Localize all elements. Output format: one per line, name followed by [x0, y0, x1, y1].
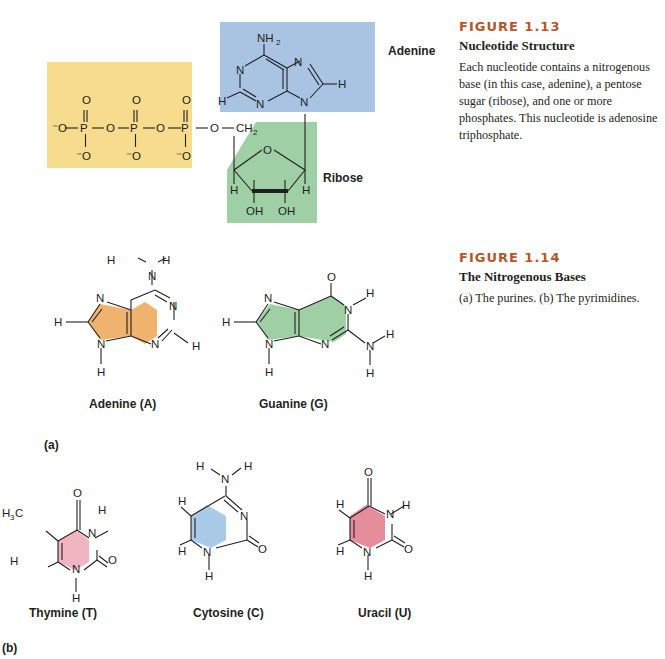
thymine-label: Thymine (T) — [29, 606, 97, 620]
svg-text:O: O — [258, 543, 267, 555]
svg-text:O: O — [263, 144, 272, 156]
svg-text:CH: CH — [236, 122, 253, 134]
svg-text:P: P — [181, 122, 189, 134]
svg-text:⁻O: ⁻O — [76, 150, 91, 162]
svg-text:⁻O: ⁻O — [126, 150, 141, 162]
adenine-label: Adenine — [388, 44, 436, 58]
svg-text:H: H — [244, 460, 252, 472]
figure-body: Each nucleotide contains a nitrogenous b… — [459, 59, 665, 144]
svg-text:NH: NH — [257, 32, 274, 44]
svg-text:C: C — [15, 507, 23, 519]
svg-text:N: N — [256, 98, 264, 110]
ribose-label: Ribose — [323, 171, 363, 185]
uracil-label: Uracil (U) — [358, 606, 411, 620]
svg-text:OH: OH — [246, 205, 263, 217]
svg-text:O: O — [73, 487, 82, 499]
svg-text:H: H — [386, 328, 394, 340]
svg-text:H: H — [265, 366, 273, 378]
svg-text:N: N — [300, 96, 308, 108]
svg-text:2: 2 — [253, 128, 258, 137]
svg-text:2: 2 — [276, 38, 281, 47]
svg-text:O: O — [106, 122, 115, 134]
svg-text:H: H — [107, 254, 115, 266]
svg-text:H: H — [302, 184, 310, 196]
svg-text:P: P — [80, 122, 88, 134]
svg-text:N: N — [240, 510, 248, 522]
svg-text:H: H — [205, 570, 213, 582]
figure-title: Nucleotide Structure — [459, 38, 665, 54]
svg-text:H: H — [366, 287, 374, 299]
svg-text:H: H — [222, 316, 230, 328]
svg-text:H: H — [366, 367, 374, 379]
svg-text:N: N — [236, 64, 244, 76]
svg-text:N: N — [169, 300, 177, 312]
figure-1-14-caption: FIGURE 1.14 The Nitrogenous Bases (a) Th… — [459, 250, 665, 307]
svg-text:O: O — [82, 94, 91, 106]
svg-text:H: H — [162, 254, 170, 266]
panel-a-label: (a) — [44, 438, 59, 452]
svg-text:N: N — [97, 338, 105, 350]
svg-text:N: N — [366, 340, 374, 352]
svg-text:H: H — [10, 555, 18, 567]
svg-text:N: N — [203, 546, 211, 558]
svg-text:N: N — [88, 527, 96, 539]
svg-text:N: N — [363, 546, 371, 558]
svg-text:H: H — [72, 592, 80, 604]
figure-1-13-caption: FIGURE 1.13 Nucleotide Structure Each nu… — [459, 19, 665, 144]
svg-text:H: H — [178, 495, 186, 507]
svg-text:O: O — [156, 122, 165, 134]
svg-text:N: N — [72, 563, 80, 575]
svg-text:O: O — [327, 271, 336, 283]
svg-text:O: O — [182, 94, 191, 106]
svg-text:O: O — [404, 543, 413, 555]
svg-text:H: H — [218, 95, 226, 107]
svg-text:H: H — [97, 366, 105, 378]
svg-text:H: H — [336, 545, 344, 557]
svg-text:⁻O: ⁻O — [176, 150, 191, 162]
svg-text:H: H — [336, 498, 344, 510]
svg-text:O: O — [132, 94, 141, 106]
svg-text:H: H — [54, 316, 62, 328]
svg-text:H: H — [178, 545, 186, 557]
svg-text:OH: OH — [278, 205, 295, 217]
svg-text:⁻O: ⁻O — [52, 122, 67, 134]
svg-text:N: N — [344, 304, 352, 316]
figure-number: FIGURE 1.13 — [459, 19, 665, 34]
guanine-g-label: Guanine (G) — [259, 397, 328, 411]
svg-text:N: N — [321, 338, 329, 350]
adenine-a-label: Adenine (A) — [89, 397, 156, 411]
figure-body: (a) The purines. (b) The pyrimidines. — [459, 290, 665, 307]
svg-text:N: N — [294, 56, 302, 68]
svg-text:H: H — [402, 499, 410, 511]
svg-text:O: O — [210, 122, 219, 134]
svg-text:N: N — [221, 473, 229, 485]
svg-text:H: H — [98, 504, 106, 516]
svg-text:N: N — [151, 338, 159, 350]
svg-text:N: N — [264, 292, 272, 304]
svg-text:O: O — [364, 466, 373, 478]
phosphate-region — [47, 62, 192, 168]
svg-text:P: P — [130, 122, 138, 134]
figure-title: The Nitrogenous Bases — [459, 269, 665, 285]
svg-text:H: H — [230, 184, 238, 196]
svg-text:H: H — [338, 78, 346, 90]
figure-number: FIGURE 1.14 — [459, 250, 665, 265]
svg-text:O: O — [108, 554, 117, 566]
svg-text:H: H — [364, 570, 372, 582]
svg-text:H: H — [196, 460, 204, 472]
cytosine-label: Cytosine (C) — [193, 606, 264, 620]
svg-text:N: N — [96, 292, 104, 304]
svg-text:N: N — [265, 338, 273, 350]
svg-text:N: N — [148, 270, 156, 282]
svg-text:N: N — [386, 508, 394, 520]
panel-b-label: (b) — [2, 641, 17, 655]
svg-text:H: H — [192, 340, 200, 352]
